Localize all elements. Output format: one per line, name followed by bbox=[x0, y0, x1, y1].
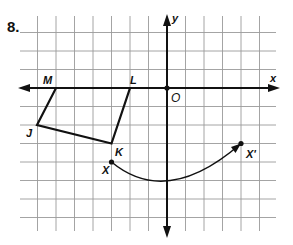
y-axis-up-arrow-icon bbox=[163, 14, 171, 26]
quadrilateral-MLKJ bbox=[37, 88, 130, 144]
point-X-prime bbox=[238, 141, 243, 146]
origin-label: O bbox=[171, 91, 180, 105]
x-axis-right-arrow-icon bbox=[268, 84, 280, 92]
coordinate-plane bbox=[0, 0, 293, 245]
x-axis-label: x bbox=[270, 72, 276, 84]
label-J: J bbox=[26, 127, 32, 139]
point-X bbox=[109, 159, 114, 164]
label-X-prime: X' bbox=[246, 148, 256, 160]
origin-point bbox=[164, 85, 169, 90]
label-L: L bbox=[130, 74, 137, 86]
label-X: X bbox=[102, 164, 109, 176]
y-axis-down-arrow-icon bbox=[163, 226, 171, 238]
label-K: K bbox=[115, 146, 123, 158]
x-axis-left-arrow-icon bbox=[18, 84, 30, 92]
label-M: M bbox=[43, 74, 52, 86]
y-axis bbox=[163, 14, 171, 238]
grid-lines bbox=[20, 16, 276, 231]
y-axis-label: y bbox=[172, 12, 178, 24]
